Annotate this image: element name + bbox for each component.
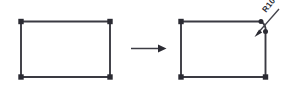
before-vertex-bottom-right [107,74,112,79]
after-vertex-bottom-right [263,74,268,79]
after-vertex-bottom-left [178,74,183,79]
after-fillet-end-point [263,29,268,34]
after-fillet-start-point [259,19,264,24]
before-vertex-top-left [18,19,23,24]
radius-callout-label: R10 [260,0,277,14]
before-shape-group [18,19,112,80]
transform-arrow-head [158,45,167,53]
before-vertex-top-right [107,19,112,24]
before-vertex-bottom-left [18,74,23,79]
transform-arrow [131,45,167,53]
radius-leader-arrowhead [255,30,263,37]
diagram-canvas: R10 [0,0,281,92]
fillet-operation-diagram: R10 [0,0,281,92]
after-vertex-top-left [178,19,183,24]
after-shape-group [178,19,268,80]
